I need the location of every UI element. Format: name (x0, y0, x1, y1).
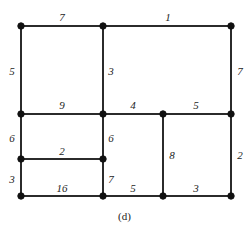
edge-weight-label: 5 (193, 100, 199, 111)
edge-weight-label: 3 (193, 183, 199, 194)
graph-vertex (100, 23, 106, 29)
edge-weight-label: 5 (130, 183, 136, 194)
graph-vertex (160, 193, 166, 199)
edge-weight-label: 4 (130, 100, 136, 111)
figure-container: 7153794566822371653 (d) (0, 0, 249, 233)
graph-vertex (100, 156, 106, 162)
edge-weight-label: 7 (59, 12, 65, 23)
edge-weight-label: 2 (237, 150, 243, 161)
graph-vertex (160, 111, 166, 117)
edge-weight-label: 8 (169, 150, 175, 161)
graph-vertex (228, 111, 234, 117)
graph-vertex (18, 156, 24, 162)
graph-vertex (18, 193, 24, 199)
edge-weight-label: 7 (237, 66, 243, 77)
graph-vertex (18, 23, 24, 29)
edge-weight-label: 6 (9, 133, 15, 144)
graph-vertex (228, 23, 234, 29)
edge-weight-label: 7 (108, 174, 114, 185)
graph-vertex (18, 111, 24, 117)
edge-weight-label: 3 (9, 174, 15, 185)
graph-canvas (0, 0, 249, 233)
edge-weight-label: 16 (57, 183, 68, 194)
graph-vertex (228, 193, 234, 199)
edge-weight-label: 3 (108, 66, 114, 77)
graph-vertex (100, 193, 106, 199)
edge-weight-label: 5 (9, 66, 15, 77)
edge-weight-label: 9 (59, 100, 65, 111)
vertices-group (18, 23, 234, 199)
graph-vertex (100, 111, 106, 117)
figure-caption: (d) (0, 210, 249, 222)
edges-group (21, 26, 231, 196)
edge-weight-label: 6 (108, 133, 114, 144)
edge-weight-label: 2 (59, 146, 65, 157)
edge-weight-label: 1 (165, 12, 171, 23)
